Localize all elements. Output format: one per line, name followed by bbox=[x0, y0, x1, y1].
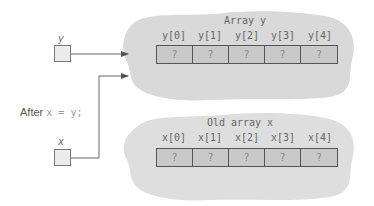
array-y-index-1: y[1] bbox=[198, 30, 222, 41]
variable-x-box bbox=[54, 149, 71, 166]
array-x-title: Old array x bbox=[207, 117, 273, 128]
array-x-index-4: x[4] bbox=[308, 132, 332, 143]
array-y-cell: ? bbox=[265, 46, 301, 63]
array-x-cell: ? bbox=[301, 149, 337, 166]
array-y-index-0: y[0] bbox=[162, 30, 186, 41]
array-x-cells: ? ? ? ? ? bbox=[156, 148, 338, 167]
array-x-index-3: x[3] bbox=[271, 132, 295, 143]
variable-y-box bbox=[54, 45, 71, 62]
array-y-cells: ? ? ? ? ? bbox=[156, 45, 338, 64]
statement-code: x = y; bbox=[46, 107, 82, 118]
statement-prefix: After bbox=[20, 106, 43, 118]
array-y-index-4: y[4] bbox=[308, 30, 332, 41]
array-x-cell: ? bbox=[157, 149, 193, 166]
array-y-title: Array y bbox=[224, 15, 266, 26]
array-x-cell: ? bbox=[193, 149, 229, 166]
variable-y-label: y bbox=[58, 33, 64, 45]
array-y-cell: ? bbox=[301, 46, 337, 63]
array-y-cell: ? bbox=[193, 46, 229, 63]
array-x-index-0: x[0] bbox=[162, 132, 186, 143]
array-y-cell: ? bbox=[229, 46, 265, 63]
array-x-cell: ? bbox=[229, 149, 265, 166]
array-y-index-3: y[3] bbox=[271, 30, 295, 41]
array-y-cell: ? bbox=[157, 46, 193, 63]
array-x-index-1: x[1] bbox=[198, 132, 222, 143]
assignment-statement: After x = y; bbox=[20, 106, 82, 118]
array-x-index-2: x[2] bbox=[235, 132, 259, 143]
array-x-cell: ? bbox=[265, 149, 301, 166]
array-y-index-2: y[2] bbox=[235, 30, 259, 41]
variable-x-label: x bbox=[58, 136, 64, 148]
